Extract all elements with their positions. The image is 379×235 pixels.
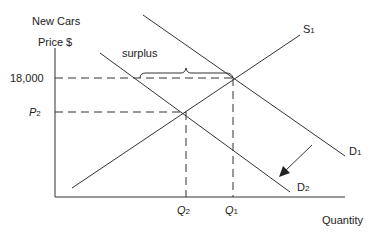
p2-subscript: 2 bbox=[36, 109, 40, 118]
d2-subscript: 2 bbox=[305, 184, 309, 193]
demand-curve-d1 bbox=[143, 15, 345, 156]
price-label-18000: 18,000 bbox=[10, 73, 44, 84]
surplus-annotation: surplus bbox=[122, 48, 157, 59]
d2-letter: D bbox=[297, 181, 305, 193]
q1-subscript: 1 bbox=[234, 207, 238, 216]
title-new-cars: New Cars bbox=[32, 16, 80, 27]
demand-curve-d2 bbox=[100, 53, 290, 192]
q2-letter: Q bbox=[177, 204, 186, 216]
quantity-label-q1: Q1 bbox=[225, 205, 238, 216]
s1-subscript: 1 bbox=[310, 26, 314, 35]
demand-label-d1: D1 bbox=[349, 146, 361, 157]
d1-letter: D bbox=[349, 145, 357, 157]
q1-letter: Q bbox=[225, 204, 234, 216]
x-axis-label: Quantity bbox=[322, 215, 363, 226]
y-axis-label: Price $ bbox=[38, 37, 72, 48]
price-label-p2: P2 bbox=[29, 107, 41, 118]
q2-subscript: 2 bbox=[186, 207, 190, 216]
supply-label-s1: S1 bbox=[303, 24, 315, 35]
quantity-label-q2: Q2 bbox=[177, 205, 190, 216]
demand-label-d2: D2 bbox=[297, 182, 309, 193]
surplus-brace bbox=[140, 68, 233, 78]
d1-subscript: 1 bbox=[357, 148, 361, 157]
shift-arrow-line bbox=[284, 145, 312, 172]
